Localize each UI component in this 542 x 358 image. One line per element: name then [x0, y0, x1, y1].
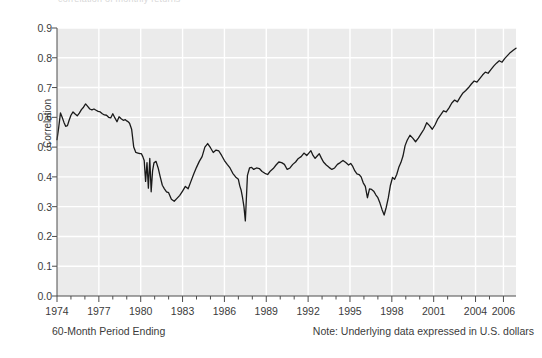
y-axis-tick-label: 0.0 — [16, 291, 52, 301]
x-axis-tick-label: 2001 — [422, 305, 445, 317]
chart-figure: correlation of monthly returns Correlati… — [0, 0, 542, 358]
x-axis-tick-label: 1980 — [129, 305, 152, 317]
cut-off-header-text: correlation of monthly returns — [58, 0, 181, 4]
x-axis-tick-label: 1995 — [338, 305, 361, 317]
x-axis-tick-label: 1983 — [171, 305, 194, 317]
y-axis-tick-label: 0.8 — [16, 53, 52, 63]
y-axis-tick-label: 0.9 — [16, 23, 52, 33]
y-axis-tick-label: 0.6 — [16, 112, 52, 122]
x-axis-tick-label: 1992 — [296, 305, 319, 317]
y-axis-tick-label: 0.3 — [16, 202, 52, 212]
y-axis-tick-label: 0.2 — [16, 231, 52, 241]
x-axis-tick-label: 1986 — [213, 305, 236, 317]
y-axis-tick-label: 0.5 — [16, 142, 52, 152]
chart-note: Note: Underlying data expressed in U.S. … — [313, 325, 534, 337]
x-axis-tick-label: 1977 — [87, 305, 110, 317]
y-axis-tick-label: 0.7 — [16, 83, 52, 93]
x-axis-tick-label: 2004 — [464, 305, 487, 317]
x-axis-tick-label: 1998 — [380, 305, 403, 317]
x-axis-tick-label: 1989 — [255, 305, 278, 317]
x-axis-caption: 60-Month Period Ending — [52, 325, 165, 337]
plot-background — [57, 28, 516, 296]
y-axis-tick-label: 0.1 — [16, 261, 52, 271]
x-axis-tick-label: 2006 — [492, 305, 515, 317]
x-axis-tick-label: 1974 — [45, 305, 68, 317]
y-axis-tick-label: 0.4 — [16, 172, 52, 182]
